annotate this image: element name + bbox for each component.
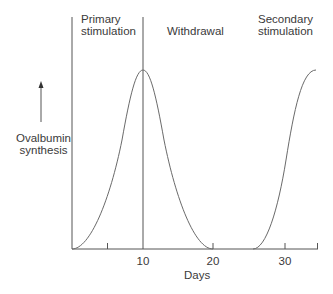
x-tick-label-10: 10 xyxy=(137,255,150,267)
secondary-response-curve xyxy=(253,70,316,249)
annotation-primary-stimulation: Primary stimulation xyxy=(81,13,136,37)
annotation-secondary-stimulation: Secondary stimulation xyxy=(258,13,313,37)
annotation-text: stimulation xyxy=(258,25,313,37)
annotation-text: Primary xyxy=(81,13,136,25)
up-arrow-icon xyxy=(39,81,44,88)
y-axis-label-line: Ovalbumin xyxy=(16,132,71,144)
annotation-withdrawal: Withdrawal xyxy=(167,25,224,37)
x-tick-label-20: 20 xyxy=(207,255,220,267)
x-tick-label-30: 30 xyxy=(279,255,292,267)
y-axis-label-line: synthesis xyxy=(16,144,71,156)
annotation-text: stimulation xyxy=(81,25,136,37)
x-axis-label: Days xyxy=(184,269,210,281)
x-ticks xyxy=(108,243,318,249)
y-axis-label: Ovalbumin synthesis xyxy=(16,132,71,156)
annotation-text: Secondary xyxy=(258,13,313,25)
annotation-text: Withdrawal xyxy=(167,25,224,37)
